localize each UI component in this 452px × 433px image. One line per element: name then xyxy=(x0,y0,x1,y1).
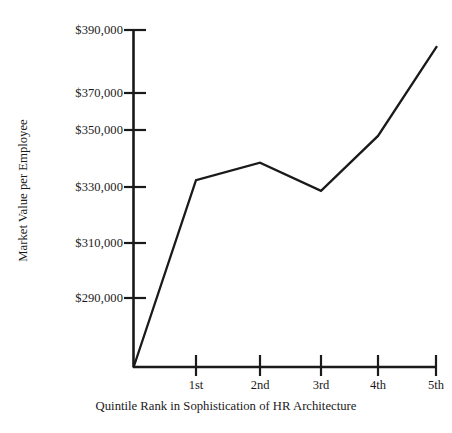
y-tick-label-310000: $310,000 xyxy=(37,237,123,250)
chart-container: $390,000 $370,000 $350,000 $330,000 $310… xyxy=(0,0,452,433)
y-axis-ticks xyxy=(124,30,146,298)
y-tick-label-290000: $290,000 xyxy=(37,292,123,305)
y-axis-title: Market Value per Employee xyxy=(16,91,31,291)
x-tick-label-5th: 5th xyxy=(428,379,444,392)
x-axis-title: Quintile Rank in Sophistication of HR Ar… xyxy=(0,399,452,414)
x-tick-label-4th: 4th xyxy=(370,379,386,392)
data-line-series-1 xyxy=(134,46,437,366)
x-tick-label-1st: 1st xyxy=(189,379,204,392)
x-tick-label-3rd: 3rd xyxy=(313,379,330,392)
x-tick-label-2nd: 2nd xyxy=(251,379,270,392)
y-tick-label-390000: $390,000 xyxy=(37,24,123,37)
y-tick-label-350000: $350,000 xyxy=(37,124,123,137)
y-tick-label-370000: $370,000 xyxy=(37,87,123,100)
y-tick-label-330000: $330,000 xyxy=(37,181,123,194)
x-axis-ticks xyxy=(196,355,436,376)
y-axis-tick-labels: $390,000 $370,000 $350,000 $330,000 $310… xyxy=(28,0,123,433)
